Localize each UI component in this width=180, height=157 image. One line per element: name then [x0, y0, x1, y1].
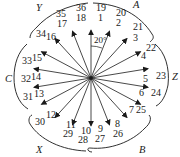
slot-label-23: 23 [156, 70, 166, 81]
phase-label-a: A [132, 0, 140, 10]
slot-label-27: 27 [95, 133, 105, 144]
slot-label-30: 30 [35, 116, 45, 127]
emf-star-diagram: 20° A Z B X C Y 19 1 20 2 21 3 22 4 5 23… [0, 0, 180, 157]
phasor-arrow-9 [91, 78, 110, 125]
slot-label-17: 17 [57, 18, 67, 29]
center-point [89, 76, 93, 80]
slot-label-16: 16 [46, 31, 56, 42]
slot-label-21: 21 [133, 21, 143, 32]
slot-label-32: 32 [21, 73, 31, 84]
slot-label-31: 31 [23, 91, 33, 102]
slot-label-4: 4 [141, 50, 146, 61]
slot-label-25: 25 [136, 104, 146, 115]
slot-label-15: 15 [32, 52, 42, 63]
slot-label-6: 6 [139, 87, 144, 98]
slot-label-2: 2 [116, 17, 121, 28]
slot-label-22: 22 [146, 42, 156, 53]
slot-label-1: 1 [98, 12, 103, 23]
phase-label-b: B [139, 144, 146, 155]
slot-label-24: 24 [151, 87, 161, 98]
slot-label-33: 33 [22, 55, 32, 66]
slot-label-34: 34 [36, 28, 46, 39]
slot-label-3: 3 [133, 32, 138, 43]
phasor-arrow-17 [55, 39, 91, 78]
slot-label-28: 28 [78, 134, 88, 145]
slot-angle-marker: 20° [91, 35, 107, 48]
slot-label-26: 26 [113, 128, 123, 139]
slot-label-7: 7 [129, 104, 134, 115]
phasor-arrow-18 [73, 31, 92, 78]
phase-label-c: C [5, 73, 13, 84]
phase-label-y: Y [36, 2, 43, 13]
phasor-arrow-8 [91, 78, 127, 117]
slot-angle-label: 20° [94, 35, 107, 45]
phasor-arrow-11 [73, 78, 92, 125]
slot-label-18: 18 [76, 12, 86, 23]
diagram-canvas: 20° A Z B X C Y 19 1 20 2 21 3 22 4 5 23… [0, 0, 180, 157]
phasor-arrow-12 [55, 78, 91, 117]
slot-label-14: 14 [31, 71, 41, 82]
phase-label-z: Z [172, 71, 178, 82]
phase-label-x: X [35, 144, 43, 155]
slot-label-13: 13 [34, 88, 44, 99]
slot-label-12: 12 [46, 109, 56, 120]
slot-label-29: 29 [63, 128, 73, 139]
slot-label-5: 5 [143, 73, 148, 84]
